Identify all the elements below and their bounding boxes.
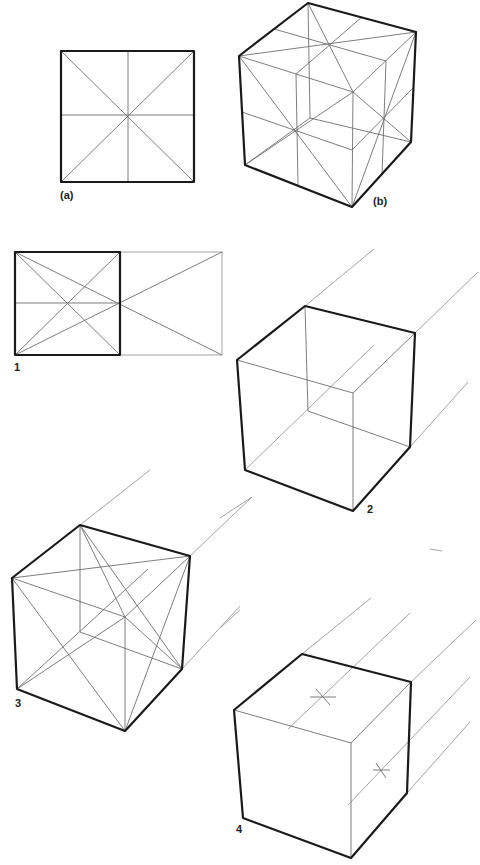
figure-a-label: (a): [60, 189, 73, 201]
figure-2-cube: [220, 249, 478, 518]
figure-4-label: 4: [236, 823, 242, 835]
figure-b-label: (b): [373, 195, 387, 207]
figure-b-cube: [239, 3, 416, 207]
figure-3-label: 3: [15, 697, 21, 709]
figure-4-cube: [220, 549, 476, 858]
figure-1-label: 1: [14, 361, 20, 373]
figure-3-cube: [12, 470, 252, 731]
drawing-canvas: [0, 0, 480, 865]
figure-1-square-rectangle: [15, 252, 222, 355]
figure-a-square: [61, 51, 194, 182]
figure-2-label: 2: [367, 503, 373, 515]
